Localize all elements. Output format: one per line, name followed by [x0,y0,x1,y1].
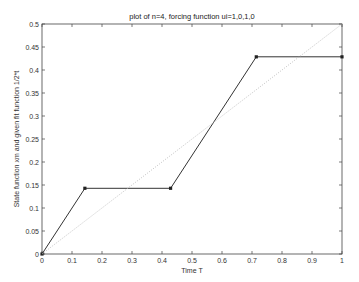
x-tick-label: 0.5 [187,257,197,264]
y-tick-label: 0.25 [25,136,39,143]
y-tick-label: 0.3 [29,113,39,120]
data-point-marker [255,55,258,58]
x-tick-label: 0.3 [127,257,137,264]
x-tick-label: 0.7 [247,257,257,264]
y-tick-label: 0.45 [25,44,39,51]
y-tick-label: 0.2 [29,159,39,166]
y-tick-label: 0.1 [29,205,39,212]
data-point-marker [340,55,343,58]
chart-title: plot of n=4, forcing function ui=1,0,1,0 [129,12,255,21]
y-tick-label: 0.5 [29,21,39,28]
x-tick-label: 0.1 [67,257,77,264]
chart: 00.10.20.30.40.50.60.70.80.9100.050.10.1… [0,0,359,282]
y-tick-label: 0 [35,251,39,258]
plot-border [42,24,342,254]
plot-frame [42,24,342,254]
y-tick-label: 0.15 [25,182,39,189]
x-tick-label: 0.8 [277,257,287,264]
data-point-marker [83,187,86,190]
series-line-0 [42,57,342,254]
x-tick-label: 0.9 [307,257,317,264]
x-tick-label: 0.6 [217,257,227,264]
series-line-1 [42,24,342,254]
y-tick-label: 0.05 [25,228,39,235]
data-point-marker [169,187,172,190]
y-tick-label: 0.4 [29,67,39,74]
x-tick-label: 0.2 [97,257,107,264]
y-tick-label: 0.35 [25,90,39,97]
x-tick-label: 1 [340,257,344,264]
series-layer [40,24,343,256]
x-tick-label: 0 [40,257,44,264]
y-axis-label: State function xm and given fit function… [13,71,21,208]
x-tick-label: 0.4 [157,257,167,264]
x-axis-label: Time T [181,267,203,274]
